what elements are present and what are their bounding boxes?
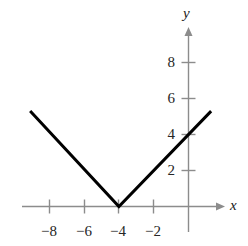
y-tick-label-6: 6 (155, 91, 175, 106)
coordinate-plane (0, 0, 248, 246)
y-axis-arrowhead (185, 27, 193, 36)
x-tick-label-neg8: −8 (32, 224, 66, 239)
x-axis-name: x (230, 198, 237, 213)
y-axis-name: y (183, 6, 190, 21)
graph-figure: −8 −6 −4 −2 8 6 4 2 x y (0, 0, 248, 246)
x-tick-label-neg2: −2 (136, 224, 170, 239)
y-tick-label-8: 8 (155, 55, 175, 70)
y-tick-label-2: 2 (155, 163, 175, 178)
x-tick-label-neg6: −6 (67, 224, 101, 239)
x-tick-label-neg4: −4 (101, 224, 135, 239)
x-axis-arrowhead (216, 203, 225, 211)
y-tick-label-4: 4 (155, 127, 175, 142)
function-curve (30, 111, 211, 206)
